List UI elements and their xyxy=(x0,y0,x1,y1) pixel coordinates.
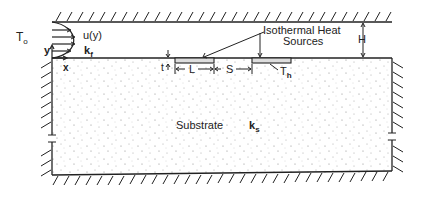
inlet-temperature-label: To xyxy=(16,30,28,46)
source-spacing-label: S xyxy=(226,63,233,75)
source-length-label: L xyxy=(189,63,195,75)
conjugate-heat-transfer-diagram: To u(y) kf y x Isothermal Heat Sources L… xyxy=(0,0,426,197)
velocity-profile xyxy=(52,22,75,58)
fluid-conductivity-label: kf xyxy=(84,44,93,59)
channel-height-label: H xyxy=(358,33,366,45)
velocity-profile-label: u(y) xyxy=(83,29,102,41)
heat-source-2 xyxy=(252,58,291,63)
substrate-region xyxy=(52,58,392,173)
x-axis-label: x xyxy=(63,62,69,73)
source-thickness-label: t xyxy=(161,62,164,73)
substrate-label: Substrate xyxy=(176,119,223,131)
heat-sources-label-line2: Sources xyxy=(283,35,324,47)
y-axis-label: y xyxy=(44,44,51,56)
top-wall xyxy=(52,12,392,22)
